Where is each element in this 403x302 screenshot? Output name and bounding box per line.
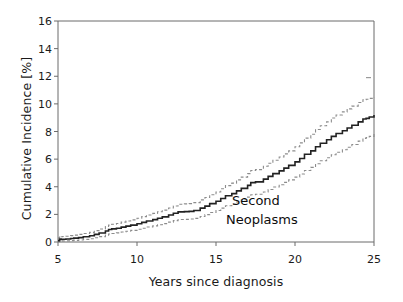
cumulative-incidence-figure: 0246810121416 510152025 Cumulative Incid… <box>0 0 403 302</box>
y-tick-label-16: 16 <box>12 15 52 28</box>
x-tick-label-20: 20 <box>275 253 315 266</box>
chart-annotation-line-2: Neoplasms <box>226 212 298 227</box>
x-tick-label-25: 25 <box>354 253 394 266</box>
scan-artifact-mark <box>366 77 371 78</box>
x-axis-tick-labels: 510152025 <box>0 253 403 273</box>
x-tick-label-10: 10 <box>117 253 157 266</box>
x-axis-title: Years since diagnosis <box>58 274 374 289</box>
y-axis-title: Cumulative Incidence [%] <box>19 29 34 249</box>
x-tick-label-15: 15 <box>196 253 236 266</box>
chart-annotation-line-1: Second <box>232 193 280 208</box>
x-tick-label-5: 5 <box>38 253 78 266</box>
